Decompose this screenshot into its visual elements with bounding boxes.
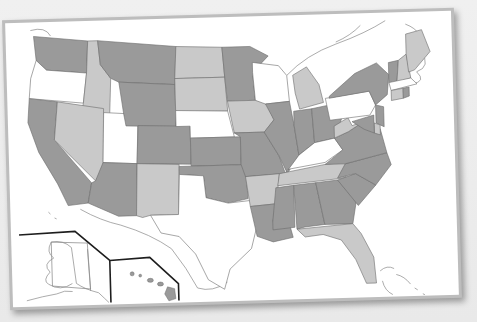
state-layer bbox=[26, 25, 437, 294]
state-ri bbox=[403, 87, 409, 98]
state-me bbox=[405, 29, 430, 72]
state-wy bbox=[119, 81, 176, 129]
state-ct bbox=[391, 88, 403, 100]
state-ak bbox=[51, 241, 90, 290]
state-mi bbox=[292, 66, 323, 109]
state-ms bbox=[272, 185, 295, 230]
state-nd bbox=[174, 45, 225, 78]
state-ks bbox=[190, 137, 241, 166]
state-sd bbox=[175, 77, 228, 112]
state-co bbox=[136, 124, 191, 165]
map-paper bbox=[5, 11, 459, 307]
state-nm bbox=[135, 162, 180, 217]
us-map bbox=[5, 11, 459, 307]
state-de bbox=[374, 123, 380, 135]
map-frame bbox=[2, 8, 462, 311]
state-wi bbox=[252, 61, 289, 104]
state-fl bbox=[297, 223, 377, 285]
caribbean-islands bbox=[380, 266, 425, 296]
baja-islands bbox=[48, 212, 56, 219]
